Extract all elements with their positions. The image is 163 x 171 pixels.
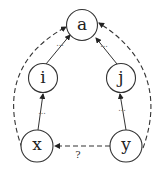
node-y: y [110, 130, 142, 162]
edge-label-j-a: ... [100, 40, 108, 49]
node-x-label: x [32, 134, 42, 154]
edge-label-y-x: ? [75, 149, 80, 160]
node-a: a [67, 10, 98, 41]
edge-label-y-j: ... [118, 104, 126, 113]
node-y-label: y [120, 134, 131, 154]
edge-label-x-i: ... [38, 107, 46, 116]
node-x: x [21, 130, 53, 162]
node-j-label: j [116, 67, 123, 87]
node-j: j [107, 64, 136, 93]
diagram-canvas: ... ... ... ... ? a i j x y [0, 0, 163, 171]
node-a-label: a [77, 14, 87, 34]
node-i-label: i [40, 67, 46, 87]
node-i: i [29, 64, 58, 93]
edge-label-i-a: ... [56, 39, 64, 48]
